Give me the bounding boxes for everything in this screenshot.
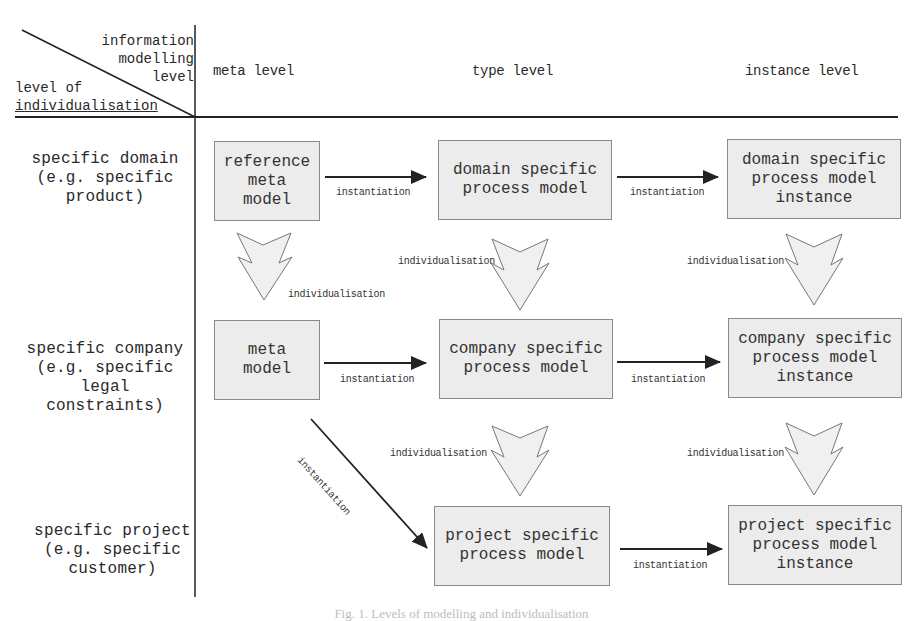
label-instantiation-3: instantiation bbox=[340, 374, 414, 385]
box-text-line: process model bbox=[453, 180, 597, 199]
row-label-line: (e.g. specific bbox=[30, 541, 195, 560]
label-individualisation-3: individualisation bbox=[687, 256, 784, 267]
box-text-line: domain specific bbox=[742, 151, 886, 170]
box-text-line: instance bbox=[742, 189, 886, 208]
box-domain-specific-process-model-instance: domain specific process model instance bbox=[727, 139, 901, 219]
column-header-type-level: type level bbox=[472, 63, 553, 79]
row-label-specific-project: specific project (e.g. specific customer… bbox=[30, 522, 195, 579]
box-project-specific-process-model: project specific process model bbox=[434, 506, 610, 586]
row-label-line: (e.g. specific legal bbox=[14, 359, 196, 397]
box-text-line: company specific bbox=[449, 340, 603, 359]
box-text-line: company specific bbox=[738, 330, 892, 349]
arrow-individualisation-3 bbox=[785, 234, 843, 305]
arrow-individualisation-5 bbox=[785, 423, 843, 495]
figure-caption: Fig. 1. Levels of modelling and individu… bbox=[0, 606, 923, 621]
corner-bottom-line-2: individualisation bbox=[15, 97, 195, 115]
row-label-specific-domain: specific domain (e.g. specific product) bbox=[20, 150, 190, 207]
box-reference-meta-model: reference meta model bbox=[214, 141, 320, 221]
arrow-individualisation-4 bbox=[491, 426, 549, 496]
box-project-specific-process-model-instance: project specific process model instance bbox=[728, 505, 902, 585]
box-text-line: instance bbox=[738, 368, 892, 387]
box-text-line: domain specific bbox=[453, 161, 597, 180]
row-label-line: (e.g. specific bbox=[20, 169, 190, 188]
box-text-line: instance bbox=[738, 555, 892, 574]
label-instantiation-2: instantiation bbox=[630, 187, 704, 198]
box-meta-model: meta model bbox=[214, 320, 320, 400]
box-company-specific-process-model: company specific process model bbox=[439, 319, 613, 399]
box-text-line: process model bbox=[738, 349, 892, 368]
box-text-line: process model bbox=[445, 546, 599, 565]
box-text-line: process model bbox=[742, 170, 886, 189]
row-label-line: constraints) bbox=[14, 397, 196, 416]
label-individualisation-4: individualisation bbox=[390, 448, 487, 459]
row-label-line: specific company bbox=[14, 340, 196, 359]
column-header-instance-level: instance level bbox=[745, 63, 858, 79]
row-label-line: product) bbox=[20, 188, 190, 207]
box-text-line: process model bbox=[738, 536, 892, 555]
box-text-line: project specific bbox=[445, 527, 599, 546]
label-instantiation-1: instantiation bbox=[336, 187, 410, 198]
corner-header-level-of-individualisation: level of individualisation bbox=[15, 79, 195, 115]
label-individualisation-2: individualisation bbox=[398, 256, 495, 267]
label-instantiation-5: instantiation bbox=[633, 560, 707, 571]
row-label-line: specific project bbox=[30, 522, 195, 541]
label-individualisation-1: individualisation bbox=[288, 289, 385, 300]
corner-top-line-1: information bbox=[70, 32, 194, 50]
box-text-line: meta bbox=[224, 172, 310, 191]
row-label-line: specific domain bbox=[20, 150, 190, 169]
box-text-line: process model bbox=[449, 359, 603, 378]
arrow-individualisation-2 bbox=[491, 239, 549, 310]
label-individualisation-5: individualisation bbox=[687, 448, 784, 459]
arrow-individualisation-1 bbox=[237, 233, 292, 300]
box-text-line: project specific bbox=[738, 517, 892, 536]
corner-top-line-2: modelling bbox=[70, 50, 194, 68]
corner-bottom-line-1: level of bbox=[15, 79, 195, 97]
box-text-line: reference bbox=[224, 153, 310, 172]
label-instantiation-4: instantiation bbox=[631, 374, 705, 385]
column-header-meta-level: meta level bbox=[213, 63, 294, 79]
box-company-specific-process-model-instance: company specific process model instance bbox=[728, 318, 902, 398]
corner-header-information-modelling-level: information modelling level bbox=[70, 32, 194, 86]
box-domain-specific-process-model: domain specific process model bbox=[438, 140, 612, 220]
row-label-specific-company: specific company (e.g. specific legal co… bbox=[14, 340, 196, 416]
box-text-line: meta bbox=[243, 341, 291, 360]
box-text-line: model bbox=[243, 360, 291, 379]
row-label-line: customer) bbox=[30, 560, 195, 579]
box-text-line: model bbox=[224, 191, 310, 210]
